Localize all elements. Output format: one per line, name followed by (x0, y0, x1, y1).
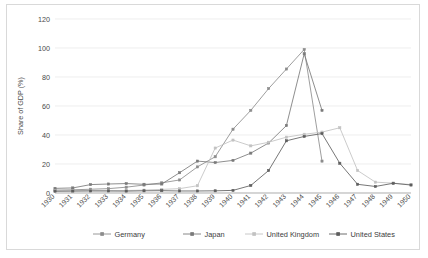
y-axis-ticks: 020406080100120 (38, 15, 50, 198)
x-tick-label: 1937 (164, 193, 180, 209)
legend-marker (101, 233, 104, 236)
data-point-marker (232, 189, 234, 191)
data-point-marker (250, 152, 252, 154)
legend-label-japan[interactable]: Japan (205, 230, 225, 239)
data-point-marker (90, 183, 92, 185)
legend-marker (191, 233, 194, 236)
data-point-marker (232, 159, 234, 161)
data-point-marker (179, 172, 181, 174)
x-tick-label: 1942 (253, 193, 269, 209)
gridlines (55, 19, 411, 193)
x-tick-label: 1938 (182, 193, 198, 209)
data-point-marker (107, 183, 109, 185)
y-tick-label: 60 (42, 102, 50, 111)
data-point-marker (303, 133, 305, 135)
line-chart: 020406080100120 193019311932193319341935… (7, 5, 421, 251)
y-tick-label: 20 (42, 160, 50, 169)
data-point-marker (143, 190, 145, 192)
data-point-marker (196, 185, 198, 187)
y-tick-label: 40 (42, 131, 50, 140)
data-point-marker (374, 185, 376, 187)
data-point-marker (285, 140, 287, 142)
legend-marker (253, 233, 256, 236)
legend-label-united-states[interactable]: United States (351, 230, 396, 239)
x-tick-label: 1941 (236, 193, 252, 209)
data-point-marker (250, 109, 252, 111)
data-point-marker (285, 124, 287, 126)
x-axis-ticks: 1930193119321933193419351936193719381939… (40, 193, 412, 209)
x-tick-label: 1930 (40, 193, 56, 209)
data-point-marker (90, 190, 92, 192)
x-tick-label: 1935 (129, 193, 145, 209)
x-tick-label: 1943 (271, 193, 287, 209)
chart-legend: GermanyJapanUnited KingdomUnited States (93, 230, 395, 239)
y-tick-label: 120 (38, 15, 50, 24)
legend-label-germany[interactable]: Germany (115, 230, 146, 239)
data-point-marker (285, 136, 287, 138)
chart-container: 020406080100120 193019311932193319341935… (6, 4, 420, 250)
data-point-marker (214, 161, 216, 163)
data-point-marker (196, 190, 198, 192)
data-point-marker (268, 141, 270, 143)
data-point-marker (374, 181, 376, 183)
data-point-marker (321, 132, 323, 134)
data-point-marker (72, 187, 74, 189)
data-point-marker (250, 184, 252, 186)
x-tick-label: 1940 (218, 193, 234, 209)
data-point-marker (410, 184, 412, 186)
data-point-marker (321, 160, 323, 162)
x-tick-label: 1939 (200, 193, 216, 209)
data-point-marker (214, 147, 216, 149)
legend-marker (337, 233, 340, 236)
x-tick-label: 1944 (289, 193, 305, 209)
data-point-marker (179, 190, 181, 192)
legend-label-united-kingdom[interactable]: United Kingdom (267, 230, 320, 239)
data-point-marker (321, 109, 323, 111)
y-tick-label: 100 (38, 44, 50, 53)
x-tick-label: 1949 (378, 193, 394, 209)
data-point-marker (285, 68, 287, 70)
x-tick-label: 1934 (111, 193, 127, 209)
data-point-marker (339, 162, 341, 164)
x-tick-label: 1947 (342, 193, 358, 209)
data-point-marker (357, 169, 359, 171)
x-tick-label: 1950 (396, 193, 412, 209)
x-tick-label: 1936 (147, 193, 163, 209)
data-point-marker (339, 127, 341, 129)
series-line-united-states (55, 134, 411, 192)
data-point-marker (125, 190, 127, 192)
data-point-marker (232, 128, 234, 130)
data-point-marker (392, 182, 394, 184)
data-point-marker (125, 186, 127, 188)
data-point-marker (161, 183, 163, 185)
data-point-marker (250, 145, 252, 147)
series-group (54, 48, 412, 192)
data-point-marker (107, 190, 109, 192)
y-axis-label: Share of GDP (%) (16, 77, 25, 135)
data-point-marker (72, 190, 74, 192)
x-tick-label: 1933 (93, 193, 109, 209)
x-tick-label: 1945 (307, 193, 323, 209)
x-tick-label: 1946 (325, 193, 341, 209)
data-point-marker (232, 139, 234, 141)
y-tick-label: 80 (42, 73, 50, 82)
x-tick-label: 1948 (360, 193, 376, 209)
data-point-marker (196, 166, 198, 168)
data-point-marker (161, 190, 163, 192)
data-point-marker (125, 182, 127, 184)
series-line-germany (55, 49, 322, 190)
data-point-marker (214, 156, 216, 158)
data-point-marker (268, 88, 270, 90)
data-point-marker (179, 179, 181, 181)
data-point-marker (54, 190, 56, 192)
data-point-marker (143, 183, 145, 185)
data-point-marker (214, 190, 216, 192)
x-tick-label: 1932 (75, 193, 91, 209)
data-point-marker (179, 188, 181, 190)
data-point-marker (303, 53, 305, 55)
data-point-marker (357, 183, 359, 185)
data-point-marker (303, 48, 305, 50)
data-point-marker (268, 169, 270, 171)
data-point-marker (196, 160, 198, 162)
data-point-marker (54, 187, 56, 189)
